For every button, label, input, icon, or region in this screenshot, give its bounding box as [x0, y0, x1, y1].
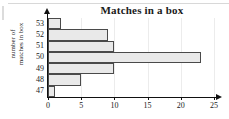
x-tick-mark	[114, 97, 115, 100]
x-tick-mark	[48, 97, 49, 100]
y-tick-label: 52	[26, 30, 44, 39]
y-axis-line	[47, 13, 48, 98]
y-tick-label: 49	[26, 64, 44, 73]
gridline	[214, 18, 215, 97]
y-tick-label: 47	[26, 86, 44, 95]
bar	[48, 74, 81, 85]
bar	[48, 18, 61, 29]
x-tick-mark	[81, 97, 82, 100]
bar-row	[48, 52, 214, 63]
x-tick-label: 20	[169, 101, 193, 110]
bar	[48, 41, 114, 52]
x-tick-label: 0	[36, 101, 60, 110]
y-tick-label: 48	[26, 75, 44, 84]
bar	[48, 63, 114, 74]
y-axis-title-line-2: matches in box	[17, 5, 25, 83]
bar-row	[48, 86, 214, 97]
bar-row	[48, 63, 214, 74]
bar	[48, 29, 108, 40]
x-tick-label: 10	[102, 101, 126, 110]
x-tick-mark	[181, 97, 182, 100]
x-tick-label: 25	[202, 101, 226, 110]
bar-row	[48, 41, 214, 52]
bar	[48, 52, 201, 63]
y-tick-label: 50	[26, 52, 44, 61]
y-axis-title: number of matches in box	[9, 5, 25, 83]
y-axis-title-line-1: number of	[9, 5, 17, 83]
bar-row	[48, 74, 214, 85]
x-tick-label: 15	[136, 101, 160, 110]
y-tick-label: 53	[26, 19, 44, 28]
x-tick-label: 5	[69, 101, 93, 110]
x-axis-arrowhead-icon	[216, 94, 222, 100]
x-tick-mark	[214, 97, 215, 100]
chart-figure: Matches in a box number of matches in bo…	[0, 0, 229, 119]
y-tick-label: 51	[26, 41, 44, 50]
scan-edge-mark	[2, 6, 4, 20]
bar-row	[48, 18, 214, 29]
x-axis-line	[47, 97, 217, 98]
y-axis-arrowhead-icon	[44, 8, 50, 14]
bar	[48, 86, 55, 97]
chart-title: Matches in a box	[88, 4, 196, 16]
x-tick-mark	[148, 97, 149, 100]
bar-row	[48, 29, 214, 40]
plot-area	[48, 18, 214, 97]
